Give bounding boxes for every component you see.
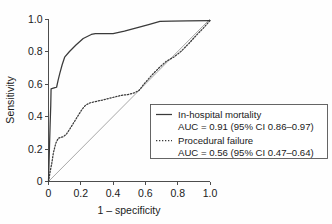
- legend-label-procedural-failure: Procedural failure: [178, 135, 253, 146]
- x-tick-label: 0: [46, 187, 52, 199]
- y-tick-label: 1.0: [28, 13, 43, 25]
- x-tick-label: 0.8: [170, 187, 185, 199]
- y-tick-label: 0.2: [28, 143, 43, 155]
- y-axis-ticks: 00.20.40.60.81.0: [28, 13, 49, 188]
- x-tick-label: 0.2: [73, 187, 88, 199]
- y-tick-label: 0.6: [28, 78, 43, 90]
- y-tick-label: 0.8: [28, 45, 43, 57]
- legend-label-in-hospital-mortality: In-hospital mortality: [178, 109, 261, 120]
- legend-auc-procedural-failure: AUC = 0.56 (95% CI 0.47–0.64): [178, 147, 314, 158]
- x-tick-label: 0.4: [106, 187, 121, 199]
- roc-chart-svg: 00.20.40.60.81.0 00.20.40.60.81.0 1 – sp…: [0, 0, 332, 224]
- x-tick-label: 1.0: [203, 187, 218, 199]
- legend-auc-in-hospital-mortality: AUC = 0.91 (95% CI 0.86–0.97): [178, 121, 314, 132]
- y-tick-label: 0.4: [28, 110, 43, 122]
- x-axis-ticks: 00.20.40.60.81.0: [46, 182, 218, 199]
- x-axis-title: 1 – specificity: [97, 204, 161, 216]
- x-tick-label: 0.6: [138, 187, 153, 199]
- legend: In-hospital mortality AUC = 0.91 (95% CI…: [151, 105, 328, 159]
- y-axis-title: Sensitivity: [4, 76, 16, 124]
- roc-curve-figure: 00.20.40.60.81.0 00.20.40.60.81.0 1 – sp…: [0, 0, 332, 224]
- y-tick-label: 0: [37, 175, 43, 187]
